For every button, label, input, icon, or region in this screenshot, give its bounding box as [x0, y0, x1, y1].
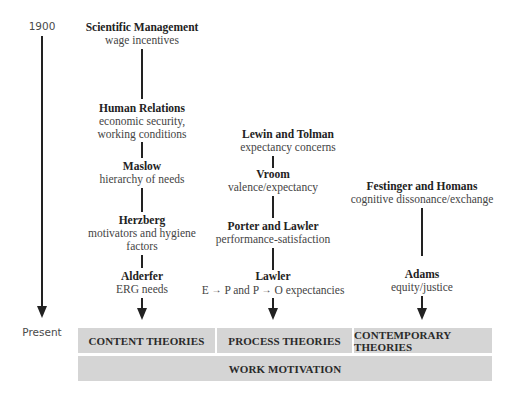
node-scientific-management: Scientific Management wage incentives — [86, 21, 199, 47]
arrowhead-icon — [137, 308, 147, 320]
node-human-relations: Human Relations economic security, worki… — [97, 102, 186, 141]
node-desc: cognitive dissonance/exchange — [351, 193, 494, 206]
node-title: Herzberg — [88, 214, 196, 227]
node-adams: Adams equity/justice — [391, 268, 453, 294]
connector-line — [141, 142, 143, 158]
node-title: Adams — [391, 268, 453, 281]
node-title: Scientific Management — [86, 21, 199, 34]
connector-line — [421, 208, 423, 256]
connector-line — [141, 49, 143, 99]
arrowhead-icon — [417, 308, 427, 320]
timeline-arrowhead-icon — [37, 306, 47, 318]
connector-line — [272, 156, 274, 168]
node-title: Lawler — [202, 270, 345, 283]
node-herzberg: Herzberg motivators and hygiene factors — [88, 214, 196, 253]
node-desc: valence/expectancy — [228, 181, 318, 194]
node-desc: expectancy concerns — [240, 141, 335, 154]
desc-part: E — [202, 284, 209, 296]
connector-line — [272, 196, 274, 218]
node-lawler: Lawler E → P and P → O expectancies — [202, 270, 345, 297]
work-motivation-bar: WORK MOTIVATION — [78, 356, 492, 381]
node-desc: performance-satisfaction — [216, 233, 330, 246]
node-desc: equity/justice — [391, 281, 453, 294]
node-desc: factors — [88, 240, 196, 253]
node-lewin-tolman: Lewin and Tolman expectancy concerns — [240, 128, 335, 154]
node-desc: E → P and P → O expectancies — [202, 283, 345, 297]
category-process-theories: PROCESS THEORIES — [217, 328, 352, 353]
node-desc: ERG needs — [116, 283, 168, 296]
desc-part: O expectancies — [274, 284, 344, 296]
timeline-start-label: 1900 — [29, 20, 56, 32]
node-title: Human Relations — [97, 102, 186, 115]
desc-part: P and P — [224, 284, 258, 296]
node-title: Alderfer — [116, 270, 168, 283]
arrowhead-icon — [268, 308, 278, 320]
node-title: Vroom — [228, 168, 318, 181]
node-desc: working conditions — [97, 128, 186, 141]
node-title: Maslow — [100, 160, 185, 173]
node-title: Lewin and Tolman — [240, 128, 335, 141]
connector-line — [141, 255, 143, 268]
timeline-line — [41, 36, 43, 308]
node-desc: motivators and hygiene — [88, 227, 196, 240]
node-porter-lawler: Porter and Lawler performance-satisfacti… — [216, 220, 330, 246]
node-title: Festinger and Homans — [351, 180, 494, 193]
category-contemporary-theories: CONTEMPORARY THEORIES — [354, 328, 492, 353]
node-desc: hierarchy of needs — [100, 173, 185, 186]
node-alderfer: Alderfer ERG needs — [116, 270, 168, 296]
node-title: Porter and Lawler — [216, 220, 330, 233]
timeline-end-label: Present — [22, 326, 61, 338]
node-desc: economic security, — [97, 115, 186, 128]
connector-line — [141, 188, 143, 212]
node-vroom: Vroom valence/expectancy — [228, 168, 318, 194]
node-desc: wage incentives — [86, 34, 199, 47]
node-festinger-homans: Festinger and Homans cognitive dissonanc… — [351, 180, 494, 206]
right-arrow-icon: → — [262, 283, 272, 296]
category-content-theories: CONTENT THEORIES — [78, 328, 215, 353]
right-arrow-icon: → — [212, 283, 222, 296]
connector-line — [272, 248, 274, 270]
node-maslow: Maslow hierarchy of needs — [100, 160, 185, 186]
